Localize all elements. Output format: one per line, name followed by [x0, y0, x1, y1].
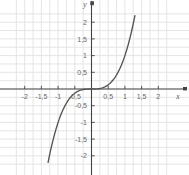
y-axis-end-marker	[90, 1, 94, 5]
x-tick-label: -0,5	[69, 93, 81, 100]
x-tick-label: -1	[55, 93, 61, 100]
x-tick-label: 1,5	[137, 93, 147, 100]
y-tick-label: -1,5	[75, 136, 87, 143]
y-tick-label: -2	[81, 152, 87, 159]
y-tick-label: 2	[83, 19, 87, 26]
x-axis-label: x	[175, 92, 180, 101]
axis-names: xy	[82, 0, 180, 101]
axes	[0, 1, 187, 175]
x-tick-label: -1,5	[35, 93, 47, 100]
y-tick-label: 0,5	[77, 69, 87, 76]
x-axis-end-marker	[183, 87, 187, 90]
y-tick-label: 1	[83, 52, 87, 59]
y-tick-label: -1	[81, 119, 87, 126]
plot-canvas: -2-1,5-1-0,50,511,52-2-1,5-1-0,50,511,52…	[0, 0, 189, 175]
x-tick-label: 0,5	[103, 93, 113, 100]
y-tick-label: -0,5	[75, 102, 87, 109]
y-tick-label: 1,5	[77, 36, 87, 43]
x-tick-label: 2	[156, 93, 160, 100]
gridlines	[0, 0, 189, 175]
x-tick-label: -2	[22, 93, 28, 100]
y-axis-label: y	[82, 0, 87, 9]
cubic-function-plot: -2-1,5-1-0,50,511,52-2-1,5-1-0,50,511,52…	[0, 0, 189, 175]
x-tick-label: 1	[123, 93, 127, 100]
